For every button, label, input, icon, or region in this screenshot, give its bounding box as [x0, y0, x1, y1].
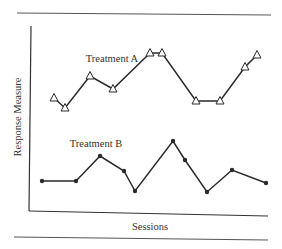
dot-marker-icon	[40, 179, 44, 183]
y-axis-label: Response Measure	[12, 77, 23, 156]
dot-marker-icon	[205, 190, 209, 194]
series-label-treatment-b: Treatment B	[70, 138, 122, 149]
dot-marker-icon	[98, 154, 102, 158]
triangle-marker-icon	[253, 51, 261, 59]
top-rule	[17, 13, 271, 15]
dot-marker-icon	[183, 158, 187, 162]
bottom-rule	[14, 237, 268, 240]
dot-marker-icon	[264, 181, 268, 185]
x-axis-label: Sessions	[132, 221, 168, 232]
triangle-marker-icon	[50, 94, 58, 102]
series-treatment-a	[50, 49, 261, 112]
dot-marker-icon	[230, 168, 234, 172]
x-axis	[29, 211, 268, 216]
triangle-marker-icon	[86, 72, 94, 80]
series-label-treatment-a: Treatment A	[86, 53, 139, 64]
y-axis	[29, 26, 31, 211]
dot-marker-icon	[133, 189, 137, 193]
series-line	[54, 53, 257, 108]
dot-marker-icon	[122, 169, 126, 173]
dot-marker-icon	[74, 179, 78, 183]
dot-marker-icon	[171, 139, 175, 143]
line-chart: Treatment A Treatment B Sessions Respons…	[0, 0, 282, 249]
